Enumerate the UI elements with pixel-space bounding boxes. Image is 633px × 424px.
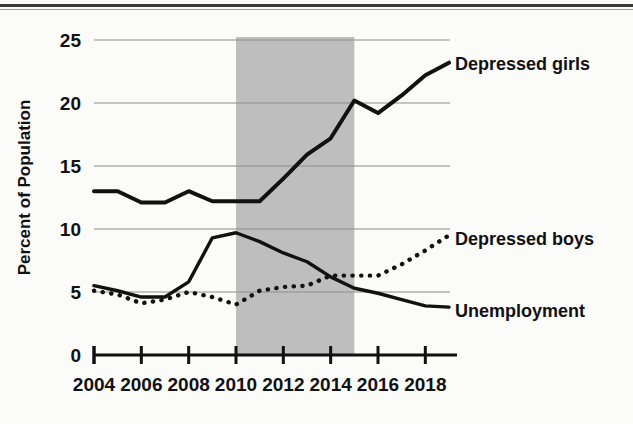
xtick-label-2008: 2008 — [168, 374, 210, 395]
ytick-label-10: 10 — [60, 219, 81, 240]
xtick-label-2010: 2010 — [215, 374, 257, 395]
y-axis-title: Percent of Population — [15, 100, 34, 276]
ytick-label-5: 5 — [70, 282, 81, 303]
chart-figure: 0510152025200420062008201020122014201620… — [0, 0, 633, 424]
ytick-label-25: 25 — [60, 30, 82, 51]
xtick-label-2006: 2006 — [120, 374, 162, 395]
xtick-label-2012: 2012 — [262, 374, 304, 395]
series-label-girls: Depressed girls — [455, 54, 590, 74]
series-label-boys: Depressed boys — [455, 229, 594, 249]
xtick-label-2014: 2014 — [310, 374, 353, 395]
line-chart: 0510152025200420062008201020122014201620… — [0, 0, 633, 424]
ytick-label-15: 15 — [60, 156, 82, 177]
ytick-label-20: 20 — [60, 93, 81, 114]
series-label-unemployment: Unemployment — [455, 301, 585, 321]
xtick-label-2004: 2004 — [73, 374, 116, 395]
xtick-label-2018: 2018 — [404, 374, 446, 395]
xtick-label-2016: 2016 — [357, 374, 399, 395]
ytick-label-0: 0 — [70, 345, 81, 366]
shaded-period — [236, 37, 354, 355]
